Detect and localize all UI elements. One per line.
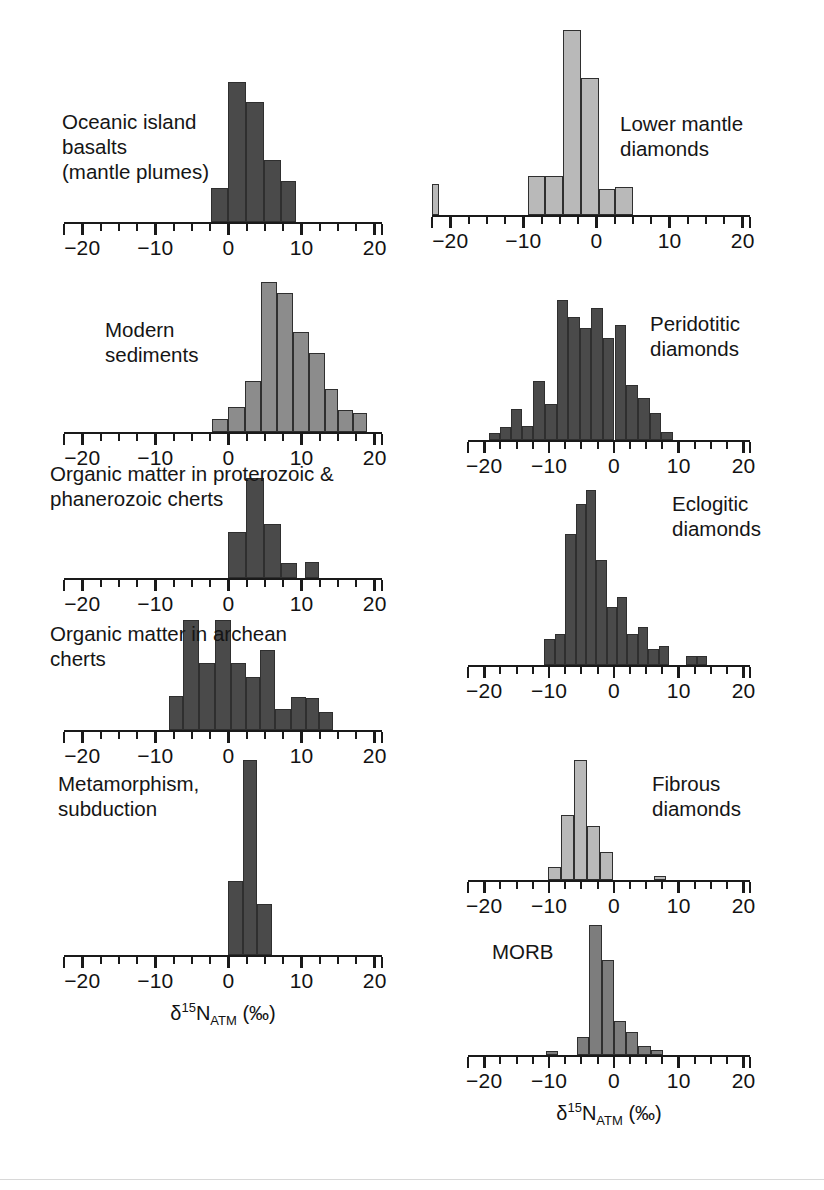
x-axis-major-tick (483, 442, 486, 453)
x-axis-major-tick (154, 434, 157, 445)
x-axis-minor-tick (191, 732, 193, 739)
x-axis-minor-tick (209, 732, 211, 739)
x-axis-line (64, 432, 382, 434)
x-axis-major-tick (300, 434, 303, 445)
x-axis-tick-label: 20 (732, 1069, 756, 1093)
histogram-bar (257, 904, 272, 955)
x-axis-line (468, 440, 750, 442)
x-axis-minor-tick (577, 217, 579, 224)
histogram-bar (275, 709, 290, 730)
x-axis-minor-tick (564, 442, 566, 449)
histogram-bar (211, 188, 229, 222)
x-axis-tick-label: −10 (531, 454, 567, 478)
x-axis-minor-tick (337, 224, 339, 231)
histogram-bar (544, 639, 554, 665)
x-axis-minor-tick (118, 580, 120, 587)
x-axis-end-tick (749, 667, 752, 678)
x-axis-minor-tick (726, 667, 728, 674)
histogram-bar (650, 413, 662, 440)
x-axis-minor-tick (564, 667, 566, 674)
x-axis-major-tick (742, 442, 745, 453)
histogram-bar (528, 176, 545, 215)
x-axis-end-tick (63, 434, 66, 445)
histogram-bar (228, 407, 244, 433)
x-axis-tick-label: −20 (466, 1069, 502, 1093)
x-axis-minor-tick (136, 732, 138, 739)
histogram-bar (661, 432, 673, 440)
x-axis-minor-tick (710, 1057, 712, 1064)
x-axis-minor-tick (516, 667, 518, 674)
histogram-bar (533, 381, 545, 440)
x-axis-minor-tick (282, 580, 284, 587)
histogram-bar (169, 696, 184, 730)
histogram-bar (281, 181, 296, 222)
x-axis-minor-tick (597, 1057, 599, 1064)
histogram-bar (659, 646, 669, 665)
histogram-bar (580, 328, 591, 440)
histogram-bar (627, 634, 637, 666)
x-axis-minor-tick (118, 732, 120, 739)
x-axis-end-tick (749, 217, 752, 228)
x-axis-minor-tick (118, 957, 120, 964)
x-axis-minor-tick (516, 1057, 518, 1064)
histogram-bar (228, 82, 246, 222)
x-axis-end-tick (63, 224, 66, 235)
histogram-bar (243, 760, 257, 955)
x-axis-minor-tick (632, 217, 634, 224)
histogram-bar (602, 960, 614, 1055)
x-axis-major-tick (300, 224, 303, 235)
x-axis-major-tick (227, 732, 230, 743)
panel-label-metamorphism-subduction: Metamorphism, subduction (58, 772, 199, 822)
x-axis-major-tick (227, 224, 230, 235)
x-axis-tick-label: −20 (432, 229, 468, 253)
x-axis-major-tick (227, 434, 230, 445)
x-axis-end-tick (381, 732, 384, 743)
x-axis-end-tick (381, 580, 384, 591)
x-axis-minor-tick (710, 882, 712, 889)
x-axis-major-tick (677, 1057, 680, 1068)
x-axis-minor-tick (629, 442, 631, 449)
x-axis-minor-tick (173, 732, 175, 739)
x-axis-tick-label: −10 (137, 236, 173, 260)
histogram-bar (212, 419, 228, 433)
x-axis-line (64, 222, 382, 224)
x-axis-minor-tick (264, 580, 266, 587)
x-axis-major-tick (300, 732, 303, 743)
x-axis-tick-label: 10 (290, 592, 314, 616)
x-axis-major-tick (300, 957, 303, 968)
x-axis-minor-tick (191, 224, 193, 231)
histogram-bar (305, 562, 320, 578)
x-axis-tick-label: −20 (466, 454, 502, 478)
x-axis-minor-tick (136, 224, 138, 231)
histogram-bar (264, 524, 282, 578)
histogram-bar (545, 176, 563, 215)
histogram-bar (557, 300, 569, 440)
x-axis-minor-tick (661, 667, 663, 674)
x-axis-tick-label: 20 (731, 229, 755, 253)
panel-label-modern-sediments: Modern sediments (105, 318, 198, 368)
x-axis-minor-tick (726, 442, 728, 449)
x-axis-major-tick (522, 217, 525, 228)
histogram-bar (489, 433, 500, 440)
x-axis-minor-tick (629, 667, 631, 674)
x-axis-major-tick (613, 882, 616, 893)
histogram-bar (615, 187, 633, 215)
x-axis-major-tick (154, 957, 157, 968)
x-axis-line (64, 730, 382, 732)
x-axis-line (468, 880, 750, 882)
x-axis-end-tick (467, 1057, 470, 1068)
panel-label-organic-matter-archean-cherts: Organic matter in archean cherts (50, 622, 287, 672)
x-axis-major-tick (81, 580, 84, 591)
x-axis-minor-tick (355, 434, 357, 441)
x-axis-end-tick (749, 1057, 752, 1068)
x-axis-minor-tick (337, 732, 339, 739)
x-axis-minor-tick (629, 1057, 631, 1064)
x-axis-major-tick (742, 1057, 745, 1068)
x-axis-end-tick (467, 442, 470, 453)
x-axis-end-tick (467, 882, 470, 893)
x-axis-minor-tick (661, 1057, 663, 1064)
x-axis-minor-tick (499, 667, 501, 674)
histogram-bar (548, 867, 561, 880)
histogram-bar (325, 389, 338, 433)
x-axis-tick-label: 10 (667, 894, 691, 918)
